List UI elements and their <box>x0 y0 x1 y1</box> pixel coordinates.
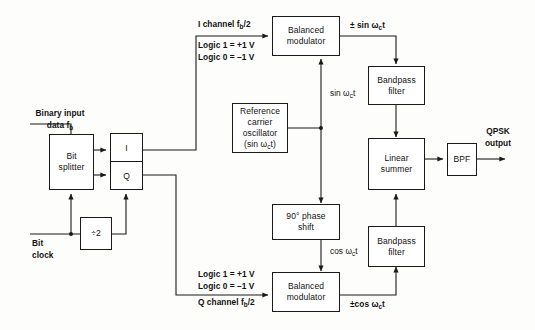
phase-shift-line2: shift <box>298 222 314 233</box>
bandpass-bottom-line1: Bandpass <box>377 236 416 247</box>
binary-input-line1: Binary input <box>36 108 85 118</box>
iq-register-block: I Q <box>110 133 143 190</box>
qpsk-output-line1: QPSK <box>486 126 510 136</box>
bit-splitter-block: Bit splitter <box>49 134 94 190</box>
bandpass-top-line2: filter <box>388 86 405 97</box>
wire-divider-to-q <box>112 194 126 234</box>
reference-carrier-oscillator-block: Reference carrier oscillator (sin ωct) <box>232 103 288 153</box>
oscillator-line2: carrier <box>248 117 273 128</box>
bit-splitter-line2: splitter <box>59 162 85 173</box>
wire-modulator-to-bpf-bottom <box>340 267 396 295</box>
i-channel-logic-levels: Logic 1 = +1 V Logic 0 = –1 V <box>198 40 255 64</box>
qpsk-modulator-diagram: Bit splitter I Q ÷2 Balanced modulator R… <box>0 0 535 330</box>
cos-carrier-label: cos ωct <box>330 246 358 258</box>
divider-label: ÷2 <box>91 228 101 239</box>
wire-modulator-to-bpf-top <box>340 36 396 64</box>
q-channel-title-label: Q channel fb/2 <box>198 297 255 309</box>
i-channel-label: I <box>125 143 127 153</box>
bpf-label: BPF <box>454 154 471 165</box>
linear-summer-line2: summer <box>381 164 412 175</box>
oscillator-line3: oscillator <box>243 128 278 139</box>
oscillator-line4: (sin ωct) <box>244 139 276 150</box>
bit-clock-label: Bit clock <box>32 238 53 262</box>
sin-output-label: ± sin ωct <box>350 20 385 32</box>
junction-dot-clock <box>69 232 73 236</box>
phase-shift-block: 90° phase shift <box>272 204 340 240</box>
bandpass-filter-bottom-block: Bandpass filter <box>368 226 425 267</box>
cos-output-label: ±cos ωct <box>350 299 385 311</box>
binary-input-label: Binary input data fb <box>22 108 98 132</box>
balanced-modulator-top-block: Balanced modulator <box>272 16 340 56</box>
q-channel-cell: Q <box>111 162 142 189</box>
balanced-modulator-bottom-line2: modulator <box>287 292 326 303</box>
phase-shift-line1: 90° phase <box>286 211 325 222</box>
oscillator-line1: Reference <box>240 106 280 117</box>
bit-clock-line2: clock <box>32 250 53 260</box>
balanced-modulator-top-line1: Balanced <box>288 25 324 36</box>
qpsk-output-label: QPSK output <box>468 126 528 150</box>
q-channel-label: Q <box>123 171 130 181</box>
bit-splitter-line1: Bit <box>66 151 76 162</box>
bandpass-filter-top-block: Bandpass filter <box>368 66 425 105</box>
sin-carrier-label: sin ωct <box>330 88 355 100</box>
q-channel-logic-levels: Logic 1 = +1 V Logic 0 = –1 V <box>198 269 255 293</box>
qpsk-output-line2: output <box>485 138 511 148</box>
q-logic0-label: Logic 0 = –1 V <box>198 281 254 291</box>
q-logic1-label: Logic 1 = +1 V <box>198 269 255 279</box>
binary-input-line2: data fb <box>47 120 73 130</box>
bandpass-bottom-line2: filter <box>388 247 405 258</box>
linear-summer-block: Linear summer <box>368 138 425 190</box>
bandpass-top-line1: Bandpass <box>377 75 416 86</box>
balanced-modulator-bottom-line1: Balanced <box>288 281 324 292</box>
divide-by-two-block: ÷2 <box>80 217 112 250</box>
linear-summer-line1: Linear <box>384 153 408 164</box>
i-channel-cell: I <box>111 134 142 162</box>
i-logic0-label: Logic 0 = –1 V <box>198 52 254 62</box>
bit-clock-line1: Bit <box>32 238 43 248</box>
balanced-modulator-bottom-block: Balanced modulator <box>272 272 340 312</box>
balanced-modulator-top-line2: modulator <box>287 36 326 47</box>
i-channel-title-label: I channel fb/2 <box>198 19 251 31</box>
i-logic1-label: Logic 1 = +1 V <box>198 40 255 50</box>
